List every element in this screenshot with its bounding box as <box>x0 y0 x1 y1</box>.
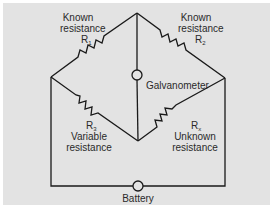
wheatstone-bridge-circuit <box>0 0 274 209</box>
galvanometer-branch <box>132 13 142 141</box>
r1-label: Known resistance <box>58 12 98 34</box>
battery-label: Battery <box>118 193 158 204</box>
r2-symbol: R2 <box>195 34 206 45</box>
rx-label: Unknown resistance <box>170 131 220 153</box>
rx-symbol: Rx <box>191 120 201 131</box>
battery-symbol <box>133 181 143 191</box>
r3-label: Variable resistance <box>66 131 112 153</box>
galvanometer-symbol <box>132 70 142 80</box>
r3-symbol: R3 <box>86 120 97 131</box>
r2-label: Known resistance <box>176 12 216 34</box>
r1-symbol: R1 <box>81 34 92 45</box>
galvanometer-label: Galvanometer <box>146 80 209 91</box>
